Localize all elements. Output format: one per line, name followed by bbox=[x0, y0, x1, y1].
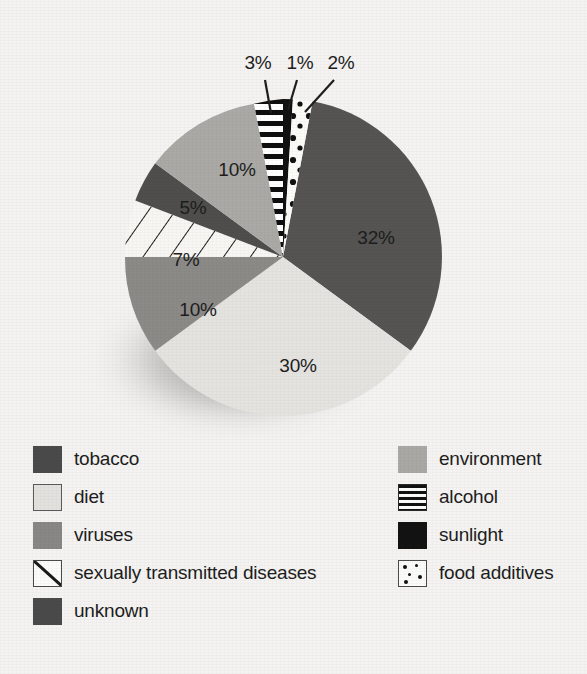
legend-swatch-sexually-transmitted-diseases bbox=[33, 560, 62, 587]
legend-item-food-additives[interactable]: food additives bbox=[398, 554, 553, 592]
legend-label-diet: diet bbox=[74, 486, 104, 508]
slice-label-unknown: 5% bbox=[179, 197, 206, 219]
legend-item-diet[interactable]: diet bbox=[33, 478, 316, 516]
pie-plot-area: 3% 1% 2% 32% 30% 10% 7% 5% 10% bbox=[0, 0, 587, 440]
legend-swatch-diet bbox=[33, 484, 62, 511]
legend-label-tobacco: tobacco bbox=[74, 448, 139, 470]
legend-swatch-viruses bbox=[33, 522, 62, 549]
legend-swatch-tobacco bbox=[33, 446, 62, 473]
pie-chart-figure: 3% 1% 2% 32% 30% 10% 7% 5% 10% tobacco d… bbox=[0, 0, 587, 674]
slice-label-diet: 30% bbox=[279, 355, 316, 377]
legend-column-right: environment alcohol sunlight food additi bbox=[398, 440, 553, 592]
legend-item-viruses[interactable]: viruses bbox=[33, 516, 316, 554]
legend-item-alcohol[interactable]: alcohol bbox=[398, 478, 553, 516]
legend-label-environment: environment bbox=[439, 448, 541, 470]
legend-item-unknown[interactable]: unknown bbox=[33, 592, 316, 630]
callout-label-alcohol: 3% bbox=[244, 52, 271, 74]
legend-swatch-alcohol bbox=[398, 484, 427, 511]
legend-swatch-unknown bbox=[33, 598, 62, 625]
slice-label-sexually-transmitted-diseases: 7% bbox=[172, 249, 199, 271]
legend-label-sexually-transmitted-diseases: sexually transmitted diseases bbox=[74, 562, 316, 584]
legend-label-alcohol: alcohol bbox=[439, 486, 498, 508]
chart-legend: tobacco diet viruses sexually transmitte… bbox=[0, 440, 587, 674]
legend-label-viruses: viruses bbox=[74, 524, 133, 546]
slice-label-environment: 10% bbox=[218, 159, 255, 181]
legend-item-environment[interactable]: environment bbox=[398, 440, 553, 478]
legend-label-sunlight: sunlight bbox=[439, 524, 503, 546]
legend-label-unknown: unknown bbox=[74, 600, 149, 622]
slice-label-tobacco: 32% bbox=[357, 227, 394, 249]
legend-item-sunlight[interactable]: sunlight bbox=[398, 516, 553, 554]
legend-swatch-sunlight bbox=[398, 522, 427, 549]
legend-item-tobacco[interactable]: tobacco bbox=[33, 440, 316, 478]
legend-item-sexually-transmitted-diseases[interactable]: sexually transmitted diseases bbox=[33, 554, 316, 592]
legend-swatch-food-additives bbox=[398, 560, 427, 587]
legend-label-food-additives: food additives bbox=[439, 562, 553, 584]
slice-label-viruses: 10% bbox=[179, 299, 216, 321]
legend-column-left: tobacco diet viruses sexually transmitte… bbox=[33, 440, 316, 630]
callout-label-sunlight: 1% bbox=[286, 52, 313, 74]
callout-label-food-additives: 2% bbox=[327, 52, 354, 74]
legend-swatch-environment bbox=[398, 446, 427, 473]
